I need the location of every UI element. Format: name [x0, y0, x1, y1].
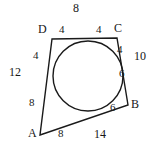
tangent-length-ba-left: 8 — [58, 128, 64, 139]
geometry-diagram: A B C D 4 4 4 6 6 8 8 4 8 10 14 12 — [0, 0, 163, 155]
side-length-ab: 14 — [94, 128, 106, 140]
tangent-length-cb-upper: 4 — [117, 44, 123, 55]
side-length-cb: 10 — [134, 50, 146, 62]
tangent-length-ba-right: 6 — [110, 102, 116, 113]
vertex-label-b: B — [131, 98, 139, 110]
tangent-length-dc-left: 4 — [59, 24, 65, 35]
side-length-ad: 12 — [9, 66, 21, 78]
tangent-length-dc-right: 4 — [96, 24, 102, 35]
vertex-label-a: A — [28, 127, 37, 139]
tangent-length-ad-upper: 4 — [33, 50, 39, 61]
side-length-dc: 8 — [73, 2, 79, 14]
vertex-label-c: C — [114, 22, 122, 34]
tangent-length-cb-lower: 6 — [119, 68, 125, 79]
geometry-figure — [0, 0, 163, 155]
tangent-length-ad-lower: 8 — [29, 97, 35, 108]
vertex-label-d: D — [38, 23, 47, 35]
